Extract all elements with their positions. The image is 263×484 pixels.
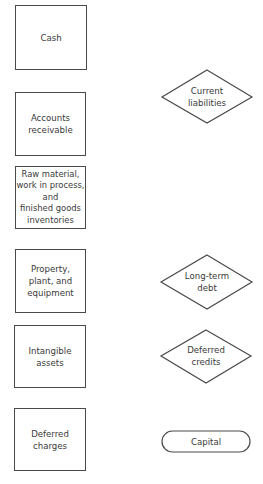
property-plant-equipment-box: Property, plant, and equipment: [15, 249, 86, 313]
long-term-debt-label: Long-term debt: [172, 268, 242, 296]
long-term-debt-text: Long-term debt: [185, 270, 229, 294]
current-liabilities-label: Current liabilities: [172, 83, 242, 111]
inventories-label: Raw material, work in process, and finis…: [16, 169, 84, 227]
property-plant-equipment-label: Property, plant, and equipment: [27, 263, 74, 299]
cash-label: Cash: [40, 32, 61, 44]
capital-text: Capital: [191, 436, 221, 448]
capital-label: Capital: [162, 431, 250, 452]
accounts-receivable-label: Accounts receivable: [28, 112, 73, 136]
cash-box: Cash: [15, 5, 87, 70]
deferred-charges-box: Deferred charges: [14, 408, 86, 471]
accounts-receivable-box: Accounts receivable: [15, 92, 86, 156]
deferred-credits-text: Deferred credits: [187, 344, 225, 368]
intangible-assets-label: Intangible assets: [28, 345, 71, 369]
deferred-charges-label: Deferred charges: [31, 428, 69, 452]
intangible-assets-box: Intangible assets: [14, 325, 86, 388]
current-liabilities-text: Current liabilities: [188, 85, 226, 109]
inventories-box: Raw material, work in process, and finis…: [15, 166, 86, 229]
deferred-credits-label: Deferred credits: [171, 342, 241, 370]
